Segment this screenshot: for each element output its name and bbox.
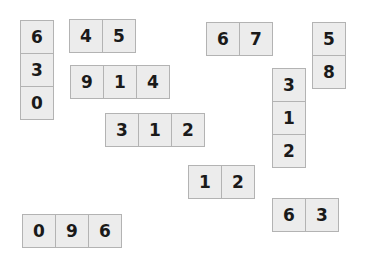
- number-tile[interactable]: 4: [136, 65, 170, 99]
- tile-group[interactable]: 096: [22, 214, 122, 248]
- number-tile[interactable]: 9: [70, 65, 104, 99]
- tile-group[interactable]: 914: [70, 65, 170, 99]
- number-tile[interactable]: 1: [138, 113, 172, 147]
- tile-group[interactable]: 58: [312, 22, 346, 89]
- number-tile[interactable]: 3: [105, 113, 139, 147]
- number-tile[interactable]: 5: [102, 19, 136, 53]
- number-tile[interactable]: 8: [312, 55, 346, 89]
- number-tile[interactable]: 6: [206, 22, 240, 56]
- number-tile[interactable]: 7: [239, 22, 273, 56]
- number-tile[interactable]: 1: [272, 101, 306, 135]
- number-tile[interactable]: 6: [272, 198, 306, 232]
- number-tile[interactable]: 9: [55, 214, 89, 248]
- tile-group[interactable]: 312: [272, 68, 306, 168]
- tile-board: 6304591431212096675831263: [0, 0, 368, 272]
- number-tile[interactable]: 0: [20, 86, 54, 120]
- number-tile[interactable]: 2: [171, 113, 205, 147]
- number-tile[interactable]: 3: [305, 198, 339, 232]
- number-tile[interactable]: 3: [272, 68, 306, 102]
- number-tile[interactable]: 4: [69, 19, 103, 53]
- number-tile[interactable]: 6: [20, 20, 54, 54]
- tile-group[interactable]: 45: [69, 19, 136, 53]
- number-tile[interactable]: 2: [272, 134, 306, 168]
- number-tile[interactable]: 6: [88, 214, 122, 248]
- tile-group[interactable]: 630: [20, 20, 54, 120]
- tile-group[interactable]: 12: [188, 165, 255, 199]
- number-tile[interactable]: 1: [103, 65, 137, 99]
- number-tile[interactable]: 2: [221, 165, 255, 199]
- number-tile[interactable]: 1: [188, 165, 222, 199]
- tile-group[interactable]: 67: [206, 22, 273, 56]
- number-tile[interactable]: 3: [20, 53, 54, 87]
- tile-group[interactable]: 312: [105, 113, 205, 147]
- tile-group[interactable]: 63: [272, 198, 339, 232]
- number-tile[interactable]: 5: [312, 22, 346, 56]
- number-tile[interactable]: 0: [22, 214, 56, 248]
